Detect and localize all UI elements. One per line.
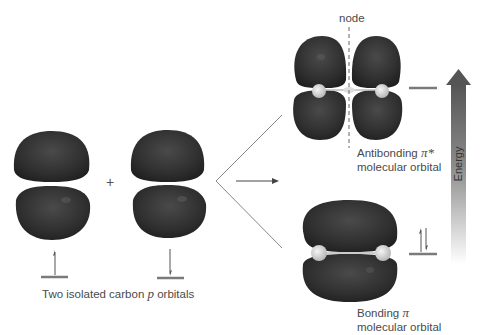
bonding-label: Bonding π molecular orbital xyxy=(357,306,441,334)
p-orbital-left xyxy=(14,131,90,240)
antibonding-label: Antibonding π* molecular orbital xyxy=(357,146,441,174)
electron-up-arrow-icon xyxy=(53,250,55,256)
bonding-level xyxy=(409,228,437,254)
electron-up-arrow-icon xyxy=(419,228,421,234)
electron-down-arrow-icon xyxy=(170,270,172,276)
level-right xyxy=(157,249,184,278)
bonding-orbital xyxy=(303,200,398,302)
electron-down-arrow-icon xyxy=(426,245,428,251)
node-label: node xyxy=(339,11,365,25)
plus-sign: + xyxy=(106,174,114,190)
level-left xyxy=(41,250,68,277)
energy-axis-label: Energy xyxy=(452,146,464,182)
arrow-right-icon xyxy=(272,178,279,184)
p-orbital-right xyxy=(131,130,206,238)
combination-lines xyxy=(216,115,282,248)
isolated-orbitals-caption: Two isolated carbon p orbitals xyxy=(42,287,194,301)
antibonding-orbital xyxy=(293,36,402,140)
